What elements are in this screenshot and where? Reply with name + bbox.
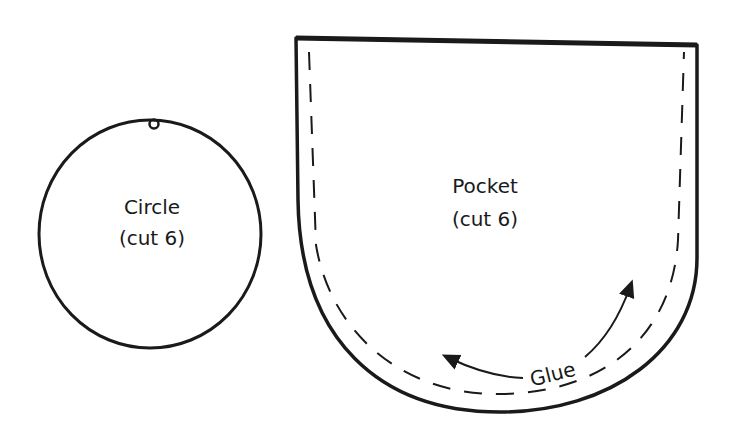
pocket-piece: Pocket (cut 6) Glue bbox=[296, 38, 697, 412]
glue-label: Glue bbox=[528, 357, 578, 391]
pocket-top-edge bbox=[296, 38, 697, 45]
circle-title: Circle bbox=[124, 195, 180, 219]
pocket-title: Pocket bbox=[452, 174, 518, 198]
pattern-diagram: Circle (cut 6) Pocket (cut 6) Glue bbox=[0, 0, 737, 446]
glue-arrow-right-icon bbox=[585, 287, 630, 357]
circle-instruction: (cut 6) bbox=[119, 226, 185, 250]
glue-arrow-left-icon bbox=[449, 358, 523, 378]
circle-piece: Circle (cut 6) bbox=[39, 120, 261, 349]
pocket-instruction: (cut 6) bbox=[452, 207, 518, 231]
